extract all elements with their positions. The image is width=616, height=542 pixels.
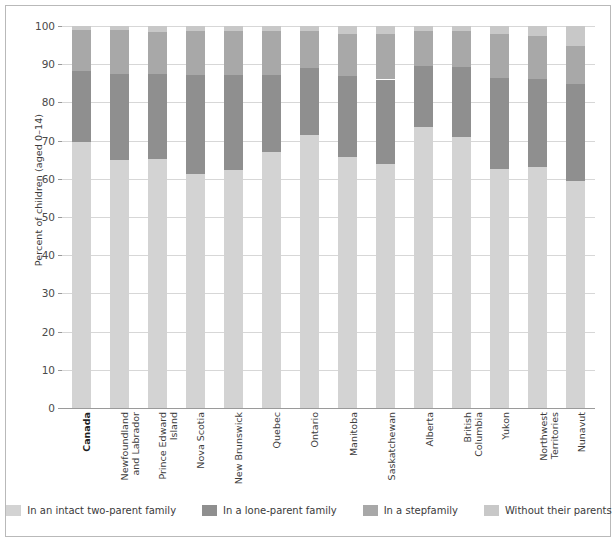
legend-item[interactable]: In an intact two-parent family <box>6 505 176 516</box>
legend-item[interactable]: Without their parents <box>484 505 612 516</box>
bar-segment <box>490 34 509 78</box>
bar-segment <box>72 71 91 142</box>
bar-segment <box>490 169 509 408</box>
y-tick-label: 0 <box>48 402 55 414</box>
bar-column <box>186 26 205 408</box>
bar-column <box>262 26 281 408</box>
bar-segment <box>224 31 243 75</box>
y-tick-label: 60 <box>42 173 55 185</box>
stacked-bar[interactable] <box>110 26 129 408</box>
bar-column <box>490 26 509 408</box>
stacked-bar[interactable] <box>490 26 509 408</box>
bar-column <box>414 26 433 408</box>
legend-item[interactable]: In a stepfamily <box>363 505 458 516</box>
stacked-bar[interactable] <box>186 26 205 408</box>
bar-segment <box>566 26 585 46</box>
bar-segment <box>338 34 357 76</box>
bar-segment <box>72 26 91 30</box>
y-tick-mark <box>58 408 62 409</box>
y-tick-label: 30 <box>42 287 55 299</box>
bar-segment <box>414 31 433 67</box>
legend-swatch <box>202 505 217 516</box>
chart-legend: In an intact two-parent familyIn a lone-… <box>14 498 604 522</box>
bar-segment <box>338 157 357 408</box>
bar-segment <box>186 26 205 31</box>
bar-segment <box>490 26 509 34</box>
bar-column <box>338 26 357 408</box>
stacked-bar[interactable] <box>262 26 281 408</box>
chart-figure: Percent of children (aged 0–14) 01020304… <box>0 0 616 542</box>
legend-label: In a lone-parent family <box>223 505 337 516</box>
bar-segment <box>452 67 471 137</box>
stacked-bar[interactable] <box>148 26 167 408</box>
bar-segment <box>528 26 547 36</box>
legend-label: In a stepfamily <box>384 505 458 516</box>
bar-segment <box>528 79 547 167</box>
bar-segment <box>148 159 167 408</box>
gridline: 0 <box>62 408 595 409</box>
bar-segment <box>414 26 433 31</box>
bar-segment <box>148 26 167 32</box>
y-tick-label: 80 <box>42 96 55 108</box>
y-tick-label: 10 <box>42 364 55 376</box>
stacked-bar[interactable] <box>566 26 585 408</box>
bar-segment <box>566 181 585 408</box>
bar-segment <box>224 170 243 408</box>
bar-segment <box>186 75 205 174</box>
legend-item[interactable]: In a lone-parent family <box>202 505 337 516</box>
bar-segment <box>300 26 319 31</box>
legend-swatch <box>363 505 378 516</box>
bar-segment <box>262 75 281 153</box>
bar-segment <box>414 66 433 127</box>
bar-column <box>566 26 585 408</box>
bar-segment <box>72 142 91 408</box>
bar-segment <box>262 26 281 31</box>
y-tick-label: 70 <box>42 135 55 147</box>
bar-segment <box>110 30 129 74</box>
bar-segment <box>528 36 547 79</box>
bar-segment <box>186 174 205 408</box>
legend-label: In an intact two-parent family <box>27 505 176 516</box>
bar-segment <box>528 167 547 408</box>
bar-column <box>376 26 395 408</box>
bar-segment <box>566 84 585 181</box>
stacked-bar[interactable] <box>338 26 357 408</box>
stacked-bar[interactable] <box>414 26 433 408</box>
bar-column <box>72 26 91 408</box>
bar-segment <box>338 76 357 156</box>
stacked-bar[interactable] <box>528 26 547 408</box>
y-tick-label: 40 <box>42 249 55 261</box>
bar-segment <box>452 26 471 31</box>
bar-segment <box>452 31 471 67</box>
stacked-bar[interactable] <box>224 26 243 408</box>
y-tick-label: 90 <box>42 58 55 70</box>
bar-segment <box>72 30 91 71</box>
stacked-bar[interactable] <box>452 26 471 408</box>
y-tick-label: 20 <box>42 326 55 338</box>
bar-column <box>528 26 547 408</box>
bar-column <box>224 26 243 408</box>
y-tick-label: 100 <box>35 20 55 32</box>
stacked-bar[interactable] <box>376 26 395 408</box>
stacked-bar[interactable] <box>300 26 319 408</box>
bar-segment <box>110 26 129 30</box>
legend-swatch <box>6 505 21 516</box>
plot-area: 0102030405060708090100 <box>62 26 595 408</box>
bar-segment <box>186 31 205 75</box>
bar-column <box>148 26 167 408</box>
legend-label: Without their parents <box>505 505 612 516</box>
bar-segment <box>414 127 433 408</box>
y-tick-label: 50 <box>42 211 55 223</box>
bar-segment <box>110 74 129 161</box>
bar-segment <box>262 152 281 408</box>
bar-segment <box>376 80 395 164</box>
legend-swatch <box>484 505 499 516</box>
bar-segment <box>148 74 167 159</box>
bar-segment <box>262 31 281 75</box>
bar-segment <box>300 68 319 135</box>
bar-segment <box>224 26 243 31</box>
bar-segment <box>376 26 395 34</box>
bar-segment <box>110 160 129 408</box>
bar-segment <box>376 164 395 408</box>
stacked-bar[interactable] <box>72 26 91 408</box>
